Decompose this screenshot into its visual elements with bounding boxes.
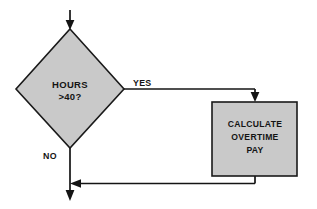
yes-branch-edge [124,89,259,102]
flowchart-canvas: HOURS >40? CALCULATE OVERTIME PAY YES NO [0,0,317,209]
decision-label-line2: >40? [58,91,81,102]
hours-decision-node[interactable]: HOURS >40? [16,29,124,148]
merge-edge [70,176,255,188]
process-label-line1: CALCULATE [228,119,283,129]
yes-branch-label: YES [133,78,152,88]
no-branch-edge [66,148,75,201]
process-label-line2: OVERTIME [231,132,278,142]
no-branch-label: NO [43,151,57,161]
decision-label-line1: HOURS [52,79,88,90]
calculate-overtime-pay-node[interactable]: CALCULATE OVERTIME PAY [212,102,297,176]
flowchart-svg: HOURS >40? CALCULATE OVERTIME PAY YES NO [0,0,317,209]
entry-arrow [66,10,75,30]
process-label-line3: PAY [246,145,263,155]
